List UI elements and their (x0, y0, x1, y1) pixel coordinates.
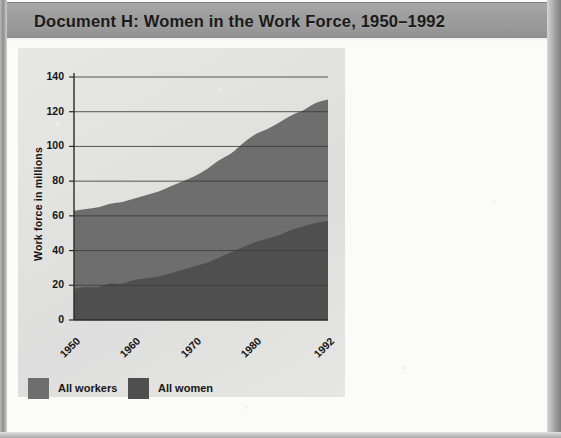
document-header-band: Document H: Women in the Work Force, 195… (7, 2, 547, 38)
chart-panel: Work force in millions 02040608010012014… (18, 48, 345, 397)
document-page: Document H: Women in the Work Force, 195… (0, 0, 561, 438)
legend-swatch-icon (128, 378, 149, 399)
legend-label: All workers (58, 382, 117, 394)
page-title: Document H: Women in the Work Force, 195… (34, 12, 445, 31)
y-tick-label: 40 (30, 244, 64, 256)
header-underline (7, 38, 547, 41)
legend-label: All women (158, 382, 213, 394)
y-tick-label: 20 (30, 278, 64, 290)
y-tick-label: 100 (30, 139, 64, 151)
y-tick-label: 140 (30, 70, 64, 82)
y-tick-label: 60 (30, 209, 64, 221)
y-tick-label: 80 (30, 174, 64, 186)
page-edge-bottom (0, 432, 561, 438)
y-tick-label: 120 (30, 105, 64, 117)
page-edge-left (0, 0, 7, 438)
page-edge-right (547, 0, 561, 438)
y-tick-label: 0 (30, 313, 64, 325)
legend-swatch-icon (28, 378, 49, 399)
